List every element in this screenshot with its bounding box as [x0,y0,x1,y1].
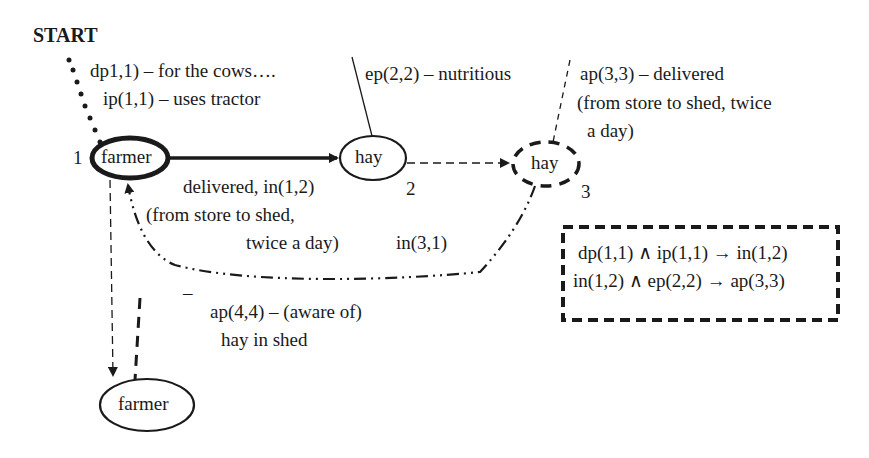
node-farmer-1-number: 1 [73,147,83,169]
ap3-annotation-line2: (from store to shed, twice [577,92,772,114]
ap4-connector-line [135,298,140,380]
ip-annotation: ip(1,1) – uses tractor [103,88,260,110]
ap4-annotation-line1: ap(4,4) – (aware of) [210,301,362,323]
rule-2: in(1,2) ∧ ep(2,2) → ap(3,3) [573,270,785,292]
edge-label-line2: (from store to shed, [146,204,295,226]
in31-label: in(3,1) [396,232,447,254]
node-farmer-1-label: farmer [101,146,152,168]
edge-label-line1: delivered, in(1,2) [183,176,314,198]
node-hay-3-label: hay [531,152,558,174]
edge-farmer-to-farmer [110,180,113,375]
ep-annotation: ep(2,2) – nutritious [365,63,511,85]
start-label: START [33,24,98,46]
ap3-connector-line [553,60,570,142]
node-hay-2-label: hay [355,146,382,168]
ap3-annotation-line3: a day) [587,120,634,142]
dash-mark: – [183,282,193,304]
node-hay-2-number: 2 [406,178,416,200]
rule-1: dp(1,1) ∧ ip(1,1) → in(1,2) [578,242,788,264]
ap3-annotation-line1: ap(3,3) – delivered [580,63,724,85]
node-farmer-4-label: farmer [118,393,169,415]
edge-label-line3: twice a day) [246,232,339,254]
dp-annotation: dp1,1) – for the cows…. [90,60,276,82]
ap4-annotation-line2: hay in shed [221,329,308,351]
node-hay-3-number: 3 [581,181,591,203]
